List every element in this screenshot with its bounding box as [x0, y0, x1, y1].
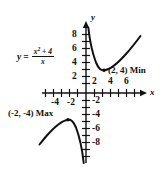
y-tick-label-neg4: -4	[92, 110, 100, 120]
y-tick-label-6: 6	[72, 44, 77, 54]
maximum-point-marker	[66, 118, 70, 122]
equation-lhs: y	[17, 52, 21, 62]
y-tick-label-4: 4	[72, 58, 77, 68]
y-axis	[82, 21, 90, 163]
equation-fraction: x2 + 4 x	[32, 48, 54, 66]
curve-right-branch	[88, 28, 140, 71]
x-tick-label-4: 4	[108, 77, 113, 87]
curve-left-branch	[40, 120, 84, 163]
x-tick-label-6: 6	[124, 77, 129, 87]
equation-equals-sign: =	[23, 52, 28, 62]
y-tick-label-2: 2	[72, 72, 77, 82]
coordinate-plane	[0, 0, 168, 170]
minimum-annotation: (2, 4) Min	[108, 66, 146, 75]
x-tick-label-2: 2	[92, 77, 97, 87]
y-axis-label: y	[91, 13, 95, 22]
y-tick-label-neg6: -6	[92, 124, 100, 134]
maximum-annotation: (-2, -4) Max	[8, 109, 53, 118]
x-tick-label-neg4: -4	[51, 98, 59, 108]
y-tick-label-8: 8	[72, 30, 77, 40]
y-tick-label-neg8: -8	[92, 138, 100, 148]
x-tick-label-neg2: -2	[67, 98, 75, 108]
equation-label: y = x2 + 4 x	[17, 48, 54, 66]
y-tick-label-neg2: -2	[92, 96, 100, 106]
minimum-point-marker	[102, 69, 106, 73]
equation-denominator: x	[32, 56, 54, 65]
numerator-rest: + 4	[40, 47, 52, 56]
equation-numerator: x2 + 4	[32, 48, 54, 56]
graph-figure: y = x2 + 4 x y x 8 6 4 2 -2 -4 -6 -8 -4 …	[0, 0, 168, 170]
x-axis-label: x	[150, 88, 155, 97]
